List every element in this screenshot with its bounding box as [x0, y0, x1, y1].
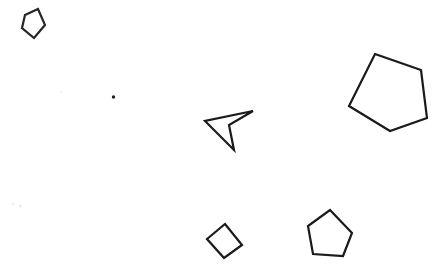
shapes-canvas [0, 0, 439, 272]
faint-speck-right [19, 204, 22, 207]
small-dot-marker[interactable] [112, 95, 115, 98]
shapes-svg-layer [0, 0, 439, 272]
faint-speck-left [11, 202, 14, 205]
faint-speck-upper [60, 91, 63, 94]
